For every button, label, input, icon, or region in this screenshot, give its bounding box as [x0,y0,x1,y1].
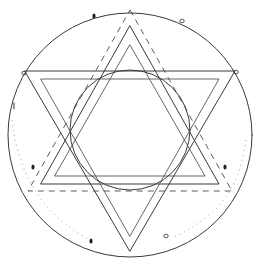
diagram-canvas [0,0,261,261]
ink-blob-mark [92,13,95,18]
ink-blob-mark [89,238,92,243]
hexagram-diagram [0,0,261,261]
dashed-triangle [28,10,232,191]
ring-mark [180,19,184,23]
downward-triangle-inner [41,79,219,236]
faint-trace-right [172,140,246,238]
inner-circle [70,70,190,190]
ring-mark [164,234,168,238]
annotation-marks [14,13,238,243]
upward-triangle-inner [55,45,205,176]
upward-triangle-outer [41,26,219,184]
ink-blob-mark [31,164,34,169]
faint-trace-left [12,120,90,240]
outer-circle [8,13,252,257]
downward-triangle-outer [25,71,235,251]
ink-blob-mark [223,164,226,169]
